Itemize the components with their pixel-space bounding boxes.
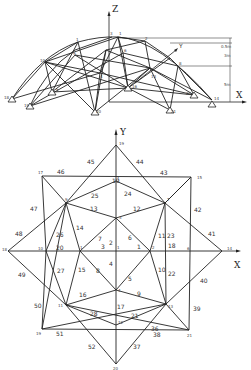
node-label: 7 <box>167 197 170 202</box>
node-label: 8 <box>179 61 182 66</box>
member-label: 45 <box>87 158 95 165</box>
member-label: 48 <box>15 230 23 237</box>
node-label: 1 <box>119 31 122 36</box>
member-label: 40 <box>200 277 208 284</box>
member-label: 12 <box>133 205 141 212</box>
member-label: 23 <box>167 232 175 239</box>
member-label: 21 <box>131 312 139 319</box>
node-label: 16 <box>132 84 138 89</box>
dim-label-0.5m: 0.5m <box>221 44 231 49</box>
node-label: 21 <box>187 333 193 338</box>
node-label: 19 <box>36 331 42 336</box>
node-label: 17 <box>38 170 44 175</box>
member-label: 46 <box>57 168 65 175</box>
plan-y-axis-label: Y <box>119 127 127 137</box>
member-label: 3 <box>101 243 105 250</box>
node-label: 3 <box>110 31 113 36</box>
node-label: 10 <box>38 246 44 251</box>
member-label: 8 <box>96 267 100 274</box>
node-label: 14 <box>214 96 220 101</box>
node-label: 4 <box>118 288 121 293</box>
member-label: 4 <box>109 260 113 267</box>
node-label: 4 <box>100 74 103 79</box>
member-label: 49 <box>18 271 26 278</box>
dim-label-5m: 5m <box>224 82 231 87</box>
member-label: 47 <box>30 205 38 212</box>
member-label: 5 <box>128 275 132 282</box>
node-label: 12 <box>118 320 124 325</box>
member-label: 41 <box>208 230 216 237</box>
member-label: 10 <box>158 266 166 273</box>
member-labels: 1 2 3 4 5 6 7 8 9 10 11 12 13 14 15 16 1… <box>15 158 216 350</box>
node-label: 15 <box>197 175 203 180</box>
node-label: 6 <box>124 48 127 53</box>
node-label: 3 <box>119 215 122 220</box>
member-label: 22 <box>168 270 176 277</box>
node-label: 18 <box>2 247 8 252</box>
member-label: 19 <box>112 177 120 184</box>
member-label: 14 <box>76 224 84 231</box>
node-label: 19 <box>119 141 125 146</box>
node-label: 6 <box>187 246 190 251</box>
plan-y-axis-arrow-icon <box>115 129 118 135</box>
x-axis-label: X <box>236 90 243 100</box>
member-label: 7 <box>98 235 102 242</box>
member-label: 17 <box>117 303 125 310</box>
member-label: 26 <box>56 231 64 238</box>
member-label: 27 <box>57 267 65 274</box>
dim-label-3m: 3m <box>224 53 231 58</box>
member-label: 16 <box>79 291 87 298</box>
member-label: 38 <box>153 331 161 338</box>
member-label: 18 <box>168 242 176 249</box>
node-label: 19 <box>24 103 30 108</box>
member-label: 24 <box>124 190 132 197</box>
member-label: 39 <box>193 305 201 312</box>
node-label: 13 <box>168 304 174 309</box>
plan-view: Y X <box>2 127 241 370</box>
member-label: 9 <box>137 290 141 297</box>
support-icon <box>8 96 16 102</box>
member-label: 15 <box>78 266 86 273</box>
member-label: 37 <box>133 343 141 350</box>
x-axis-arrow-icon <box>242 101 247 104</box>
member-label: 44 <box>136 158 144 165</box>
member-label: 52 <box>88 343 96 350</box>
member-label: 50 <box>34 302 42 309</box>
node-label: 11 <box>58 303 64 308</box>
elevation-view: Z X Y 0.5m 3m 5m <box>4 4 247 115</box>
member-label: 28 <box>90 310 98 317</box>
z-axis-arrow-icon <box>108 11 111 16</box>
plan-x-axis-label: X <box>234 260 241 270</box>
node-label: 21 <box>171 109 177 114</box>
node-label: 7 <box>56 88 59 93</box>
member-label: 51 <box>56 330 64 337</box>
node-label: 18 <box>4 95 10 100</box>
node-label: 10 <box>40 58 46 63</box>
member-label: 25 <box>91 192 99 199</box>
member-label: 43 <box>160 169 168 176</box>
node-label: 1 <box>117 245 120 250</box>
member-label: 2 <box>109 239 113 246</box>
node-label: 20 <box>113 366 119 370</box>
z-axis-label: Z <box>112 4 118 14</box>
node-label: 14 <box>227 246 233 251</box>
plan-x-axis-arrow-icon <box>236 250 241 253</box>
member-label: 42 <box>194 206 202 213</box>
member-label: 11 <box>158 232 166 239</box>
member-label: 1 <box>137 243 141 250</box>
node-label: 20 <box>96 109 102 114</box>
node-label: 2 <box>152 245 155 250</box>
member-label: 6 <box>128 234 132 241</box>
member-label: 20 <box>56 244 64 251</box>
node-label: 22 <box>186 91 192 96</box>
node-label: 1 <box>76 37 79 42</box>
node-label: 2 <box>145 36 148 41</box>
dome-truss-diagram: Z X Y 0.5m 3m 5m <box>0 0 251 370</box>
member-label: 13 <box>90 205 98 212</box>
node-label: 13 <box>151 74 157 79</box>
